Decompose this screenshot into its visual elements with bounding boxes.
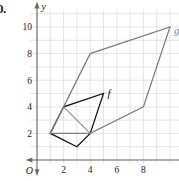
y-tick-label: 8 bbox=[27, 49, 32, 59]
gridlines-group bbox=[30, 10, 179, 164]
x-axis-arrowhead-left bbox=[26, 158, 33, 163]
y-axis-arrowhead bbox=[34, 2, 39, 9]
y-tick-label: 4 bbox=[27, 102, 32, 112]
coordinate-plane-figure: 0. 2468246810Oxy fg bbox=[0, 0, 179, 181]
x-tick-label: 4 bbox=[88, 165, 93, 175]
y-tick-label: 6 bbox=[27, 76, 32, 86]
coordinate-plot: 2468246810Oxy fg bbox=[0, 0, 179, 181]
y-axis-arrowhead-down bbox=[35, 169, 40, 176]
x-tick-label: 8 bbox=[141, 165, 146, 175]
origin-label: O bbox=[26, 165, 33, 176]
problem-number: 0. bbox=[0, 1, 6, 17]
x-tick-label: 6 bbox=[114, 165, 119, 175]
y-tick-label: 10 bbox=[23, 22, 33, 32]
figure-label-g: g bbox=[174, 24, 179, 36]
y-axis-label: y bbox=[41, 1, 47, 12]
x-tick-label: 2 bbox=[61, 165, 66, 175]
axes-group bbox=[26, 2, 179, 176]
y-tick-label: 2 bbox=[27, 129, 32, 139]
